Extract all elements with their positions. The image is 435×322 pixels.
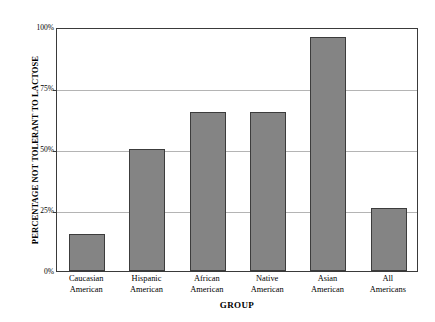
bar-slot <box>298 29 358 271</box>
y-tick-label: 50% <box>28 146 54 154</box>
chart-screenshot: PERCENTAGE NOT TOLERANT TO LACTOSE 0%25%… <box>0 0 435 322</box>
bar-slot <box>238 29 298 271</box>
x-tick-label: AfricanAmerican <box>177 274 237 295</box>
plot-area <box>56 28 418 272</box>
y-tick-label: 100% <box>28 24 54 32</box>
x-tick-label: CaucasianAmerican <box>56 274 116 295</box>
y-tick-label: 0% <box>28 268 54 276</box>
x-tick-label: HispanicAmerican <box>116 274 176 295</box>
bar-slot <box>117 29 177 271</box>
bar-slot <box>57 29 117 271</box>
x-tick-label: NativeAmerican <box>237 274 297 295</box>
bar-slot <box>178 29 238 271</box>
bar <box>129 149 165 271</box>
y-tick-label: 75% <box>28 85 54 93</box>
bar <box>250 112 286 271</box>
bar <box>69 234 105 271</box>
x-tick-label: AsianAmerican <box>297 274 357 295</box>
bar <box>371 208 407 271</box>
x-axis-title: GROUP <box>56 300 418 310</box>
y-tick-label: 25% <box>28 207 54 215</box>
bar <box>310 37 346 271</box>
bar <box>190 112 226 271</box>
x-tick-label: AllAmericans <box>358 274 418 295</box>
bar-series <box>57 29 417 271</box>
bar-slot <box>359 29 419 271</box>
y-axis-tick-labels: 0%25%50%75%100% <box>24 0 54 322</box>
x-axis-tick-labels: CaucasianAmericanHispanicAmericanAfrican… <box>56 274 418 300</box>
